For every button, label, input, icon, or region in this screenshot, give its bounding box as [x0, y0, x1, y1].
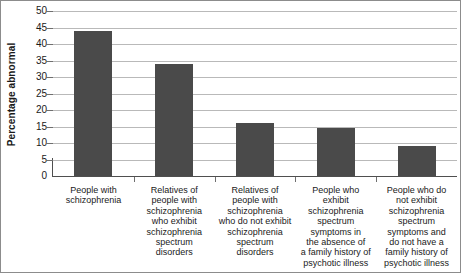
x-label-line: the absence of	[295, 237, 376, 247]
x-label-line: schizophrenia	[134, 227, 215, 237]
y-tick-mark	[46, 110, 53, 111]
y-tick-mark	[46, 143, 53, 144]
x-tick-mark	[215, 177, 216, 182]
bar-chart-figure: Percentage abnormal 05101520253035404550…	[0, 0, 461, 273]
y-tick-mark	[46, 77, 53, 78]
gridline	[53, 110, 457, 111]
y-tick-mark	[46, 94, 53, 95]
bar	[398, 146, 436, 176]
x-category-label: People withschizophrenia	[53, 185, 134, 206]
x-label-line: symptoms and	[376, 227, 457, 237]
x-category-label: Relatives ofpeople withschizophreniawho …	[215, 185, 296, 258]
y-axis-tick-labels: 05101520253035404550	[23, 11, 47, 176]
x-label-line: People who	[295, 185, 376, 195]
y-tick-mark	[46, 28, 53, 29]
y-tick-label: 10	[25, 138, 47, 148]
x-axis-category-labels: People withschizophreniaRelatives ofpeop…	[53, 185, 457, 271]
x-tick-mark	[134, 177, 135, 182]
y-tick-label: 40	[25, 39, 47, 49]
y-tick-mark	[46, 11, 53, 12]
gridline	[53, 77, 457, 78]
y-tick-label: 45	[25, 23, 47, 33]
x-label-line: Relatives of	[215, 185, 296, 195]
x-label-line: spectrum	[376, 216, 457, 226]
x-label-line: disorders	[134, 247, 215, 257]
y-tick-label: 50	[25, 6, 47, 16]
x-label-line: schizophrenia	[134, 206, 215, 216]
bar	[74, 31, 112, 176]
x-category-label: People whoexhibitschizophreniaspectrumsy…	[295, 185, 376, 268]
y-tick-label: 20	[25, 105, 47, 115]
bar	[317, 128, 355, 176]
y-tick-label: 15	[25, 122, 47, 132]
gridline	[53, 61, 457, 62]
x-label-line: disorders	[215, 247, 296, 257]
y-tick-label: 0	[25, 171, 47, 181]
x-label-line: psychotic illness	[295, 258, 376, 268]
y-tick-mark	[46, 127, 53, 128]
gridline	[53, 28, 457, 29]
x-axis-spine	[52, 176, 457, 177]
x-label-line: family history of	[376, 247, 457, 257]
x-label-line: psychotic illness	[376, 258, 457, 268]
x-label-line: spectrum	[295, 216, 376, 226]
bar	[236, 123, 274, 176]
y-tick-label: 35	[25, 56, 47, 66]
x-label-line: schizophrenia	[215, 206, 296, 216]
y-tick-mark	[46, 44, 53, 45]
plot-area	[53, 11, 457, 176]
x-label-line: people with	[215, 195, 296, 205]
x-label-line: schizophrenia	[376, 206, 457, 216]
x-label-line: exhibit	[295, 195, 376, 205]
x-tick-mark	[376, 177, 377, 182]
y-tick-label: 25	[25, 89, 47, 99]
x-label-line: symptoms in	[295, 227, 376, 237]
y-tick-label: 30	[25, 72, 47, 82]
x-label-line: do not have a	[376, 237, 457, 247]
y-tick-label: 5	[25, 155, 47, 165]
gridline	[53, 44, 457, 45]
x-label-line: spectrum	[215, 237, 296, 247]
x-label-line: People with	[53, 185, 134, 195]
x-label-line: spectrum	[134, 237, 215, 247]
x-label-line: schizophrenia	[215, 227, 296, 237]
x-label-line: schizophrenia	[295, 206, 376, 216]
y-tick-mark	[46, 160, 53, 161]
x-category-label: Relatives ofpeople withschizophreniawho …	[134, 185, 215, 258]
x-label-line: who exhibit	[134, 216, 215, 226]
y-tick-mark	[46, 61, 53, 62]
bar	[155, 64, 193, 176]
x-label-line: schizophrenia	[53, 195, 134, 205]
y-axis-title-text: Percentage abnormal	[7, 42, 18, 146]
x-label-line: people with	[134, 195, 215, 205]
x-label-line: People who do	[376, 185, 457, 195]
x-label-line: a family history of	[295, 247, 376, 257]
x-label-line: who do not exhibit	[215, 216, 296, 226]
y-axis-title: Percentage abnormal	[1, 1, 23, 187]
x-tick-mark	[295, 177, 296, 182]
x-category-label: People who donot exhibitschizophreniaspe…	[376, 185, 457, 268]
y-axis-spine	[52, 158, 53, 176]
x-label-line: Relatives of	[134, 185, 215, 195]
x-label-line: not exhibit	[376, 195, 457, 205]
gridline	[53, 94, 457, 95]
gridline	[53, 11, 457, 12]
